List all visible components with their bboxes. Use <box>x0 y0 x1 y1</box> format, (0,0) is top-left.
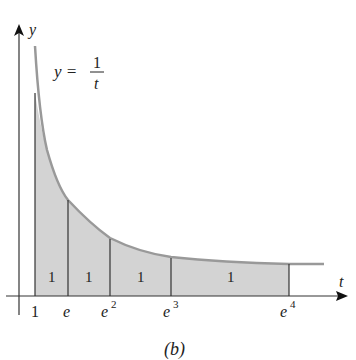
shaded-area <box>35 93 289 296</box>
area-label-2: 1 <box>85 269 93 285</box>
tick-label-e2-sup: 2 <box>111 298 117 310</box>
function-label-lhs: y = <box>52 62 77 81</box>
figure-caption: (b) <box>164 339 185 360</box>
function-label-denominator: t <box>94 75 99 92</box>
function-label-numerator: 1 <box>93 54 101 71</box>
tick-label-e4: e <box>280 303 287 320</box>
area-label-4: 1 <box>227 269 235 285</box>
tick-label-e3-sup: 3 <box>173 298 179 310</box>
tick-label-e4-sup: 4 <box>290 298 296 310</box>
tick-label-e: e <box>63 303 70 320</box>
figure: y t y = 1 t 1 1 1 1 1 e e 2 e 3 e 4 (b) <box>0 0 356 360</box>
area-label-3: 1 <box>137 269 145 285</box>
y-axis-label: y <box>27 21 37 39</box>
tick-label-1: 1 <box>31 303 39 320</box>
tick-label-e3: e <box>163 303 170 320</box>
x-axis-label: t <box>339 273 344 290</box>
tick-label-e2: e <box>101 303 108 320</box>
area-label-1: 1 <box>48 269 56 285</box>
